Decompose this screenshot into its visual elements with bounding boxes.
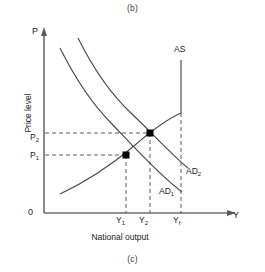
output-tick-y1: Y1 bbox=[116, 216, 125, 225]
price-tick-p1: P1 bbox=[30, 151, 39, 160]
price-tick-p2-subscript: 2 bbox=[36, 137, 39, 143]
curve-label-ad2-subscript: 2 bbox=[198, 171, 201, 177]
price-tick-p2-text: P bbox=[30, 132, 36, 142]
curve-label-ad1: AD1 bbox=[159, 187, 174, 196]
curve-label-ad2: AD2 bbox=[186, 167, 201, 176]
price-tick-p1-subscript: 1 bbox=[36, 155, 39, 161]
curve-as-sloping bbox=[60, 113, 181, 194]
equilibrium-marker-2 bbox=[147, 130, 154, 137]
figure-caption-bottom: (c) bbox=[0, 254, 265, 264]
x-axis-symbol: Y bbox=[233, 211, 239, 220]
curve-label-ad1-text: AD bbox=[159, 186, 171, 196]
curve-label-as: AS bbox=[174, 45, 185, 54]
y-axis-symbol: P bbox=[32, 27, 38, 36]
output-tick-y2-subscript: 2 bbox=[145, 220, 148, 226]
output-tick-y2: Y2 bbox=[139, 216, 148, 225]
curve-ad1 bbox=[60, 48, 182, 192]
origin-label: 0 bbox=[28, 208, 33, 217]
y-axis-arrowhead bbox=[41, 27, 47, 36]
curve-label-ad1-subscript: 1 bbox=[171, 191, 174, 197]
curve-label-ad2-text: AD bbox=[186, 166, 198, 176]
x-axis-title: National output bbox=[0, 232, 240, 242]
output-tick-y1-text: Y bbox=[116, 215, 122, 225]
output-tick-y2-text: Y bbox=[139, 215, 145, 225]
price-tick-p2: P2 bbox=[30, 133, 39, 142]
price-tick-p1-text: P bbox=[30, 150, 36, 160]
output-tick-yf-text: Y bbox=[173, 215, 179, 225]
equilibrium-marker-1 bbox=[123, 152, 130, 159]
ad-as-diagram-figure: (b) P Y 0 Price level National output bbox=[0, 0, 265, 272]
curve-ad2 bbox=[78, 38, 188, 168]
output-tick-y1-subscript: 1 bbox=[122, 220, 125, 226]
output-tick-yf: Yf bbox=[173, 216, 180, 225]
